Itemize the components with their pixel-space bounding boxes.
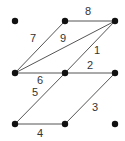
node-dot-f xyxy=(112,70,118,76)
edge-label: 1 xyxy=(94,44,100,56)
edge-label: 6 xyxy=(37,74,43,86)
node-dot-h xyxy=(62,121,68,127)
node-dot-a xyxy=(12,18,18,24)
node-dot-d xyxy=(12,70,18,76)
edge-7 xyxy=(15,21,65,73)
edge-label: 7 xyxy=(30,32,36,44)
edge-label: 3 xyxy=(92,101,98,113)
graph-diagram: 123456789 xyxy=(0,0,125,141)
edge-label: 4 xyxy=(37,127,43,139)
edge-3 xyxy=(65,73,115,124)
node-dot-g xyxy=(12,121,18,127)
node-dot-i xyxy=(112,121,118,127)
edge-label: 8 xyxy=(85,5,91,17)
edge-label: 5 xyxy=(32,86,38,98)
edge-label: 2 xyxy=(87,59,93,71)
node-dot-e xyxy=(62,70,68,76)
node-dot-b xyxy=(62,18,68,24)
node-dot-c xyxy=(112,18,118,24)
edge-label: 9 xyxy=(60,32,66,44)
